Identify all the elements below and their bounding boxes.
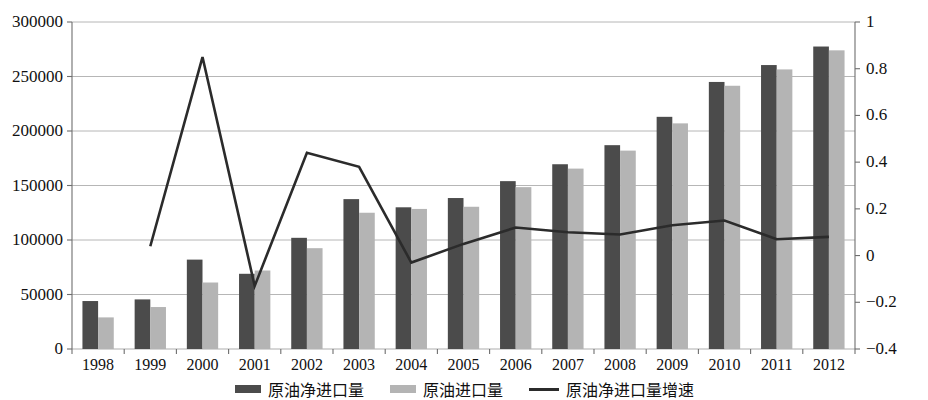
bar bbox=[725, 86, 741, 349]
legend-item-imports: 原油进口量 bbox=[390, 377, 503, 400]
bar bbox=[187, 260, 203, 349]
bar bbox=[135, 299, 151, 349]
bar bbox=[568, 169, 584, 349]
bar bbox=[150, 307, 166, 349]
legend-item-net-imports: 原油净进口量 bbox=[235, 377, 364, 400]
x-axis-tick-label: 2005 bbox=[437, 357, 489, 373]
bar bbox=[813, 47, 829, 349]
bar bbox=[777, 69, 793, 349]
bar bbox=[239, 274, 255, 349]
bar bbox=[98, 317, 114, 349]
x-axis-tick-label: 2003 bbox=[333, 357, 385, 373]
y-axis-right-tick-label: 1 bbox=[866, 13, 875, 30]
bar bbox=[829, 50, 845, 349]
bar bbox=[307, 248, 323, 349]
bar bbox=[761, 65, 777, 349]
light-bar-swatch bbox=[390, 385, 416, 393]
legend-label-growth-rate: 原油净进口量增速 bbox=[566, 377, 694, 400]
chart-container: 050000100000150000200000250000300000 −0.… bbox=[0, 0, 928, 400]
bar bbox=[396, 207, 412, 349]
x-axis-tick-label: 2008 bbox=[594, 357, 646, 373]
bar bbox=[516, 187, 532, 349]
y-axis-left-tick-label: 100000 bbox=[12, 231, 63, 248]
bar bbox=[464, 207, 480, 349]
bar bbox=[203, 283, 219, 349]
x-axis-tick-label: 2004 bbox=[385, 357, 437, 373]
y-axis-left-tick-label: 150000 bbox=[12, 177, 63, 194]
bar bbox=[604, 145, 620, 349]
bar bbox=[448, 198, 464, 349]
y-axis-left-tick-label: 200000 bbox=[12, 122, 63, 139]
bar bbox=[672, 123, 688, 349]
y-axis-left-tick-label: 0 bbox=[55, 340, 64, 357]
x-axis-tick-label: 2011 bbox=[751, 357, 803, 373]
x-axis-tick-label: 2006 bbox=[490, 357, 542, 373]
chart-plot-area bbox=[0, 0, 928, 400]
bar bbox=[411, 209, 427, 349]
y-axis-right-tick-label: −0.2 bbox=[866, 293, 897, 310]
x-axis-tick-label: 2010 bbox=[698, 357, 750, 373]
x-axis-tick-label: 2001 bbox=[229, 357, 281, 373]
x-axis-tick-label: 2000 bbox=[176, 357, 228, 373]
dark-bar-swatch bbox=[235, 385, 261, 393]
x-axis-tick-label: 2007 bbox=[542, 357, 594, 373]
x-axis-tick-label: 1998 bbox=[72, 357, 124, 373]
bar bbox=[82, 301, 98, 349]
legend-label-net-imports: 原油净进口量 bbox=[268, 377, 364, 400]
y-axis-left-tick-label: 300000 bbox=[12, 13, 63, 30]
chart-legend: 原油净进口量 原油进口量 原油净进口量增速 bbox=[0, 377, 928, 400]
bar bbox=[709, 82, 725, 349]
x-axis-tick-label: 1999 bbox=[124, 357, 176, 373]
bar bbox=[552, 164, 568, 349]
bar bbox=[500, 181, 516, 349]
x-axis-tick-label: 2012 bbox=[803, 357, 855, 373]
bar bbox=[620, 151, 636, 349]
y-axis-right-tick-label: 0.6 bbox=[866, 106, 887, 123]
line-swatch bbox=[529, 388, 559, 391]
y-axis-right-tick-label: 0.4 bbox=[866, 153, 887, 170]
y-axis-left-tick-label: 250000 bbox=[12, 68, 63, 85]
y-axis-right-tick-label: 0.2 bbox=[866, 200, 887, 217]
x-axis-tick-label: 2009 bbox=[646, 357, 698, 373]
y-axis-right-tick-label: −0.4 bbox=[866, 340, 897, 357]
bar bbox=[657, 117, 673, 349]
x-axis-tick-label: 2002 bbox=[281, 357, 333, 373]
legend-item-growth-rate: 原油净进口量增速 bbox=[529, 377, 694, 400]
bar bbox=[359, 213, 375, 349]
bar bbox=[343, 199, 359, 349]
y-axis-right-tick-label: 0.8 bbox=[866, 60, 887, 77]
bar bbox=[291, 238, 307, 349]
y-axis-left-tick-label: 50000 bbox=[21, 286, 64, 303]
y-axis-right-tick-label: 0 bbox=[866, 247, 875, 264]
legend-label-imports: 原油进口量 bbox=[423, 377, 503, 400]
